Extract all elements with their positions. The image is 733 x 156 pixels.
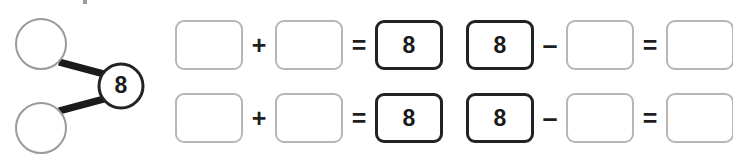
math-worksheet: 8 + = 8 8 – = + = 8 8 bbox=[0, 0, 733, 156]
equation-expression: 8 – = bbox=[466, 93, 733, 143]
equals-operator-icon: = bbox=[343, 33, 375, 58]
plus-operator-icon: + bbox=[243, 33, 275, 58]
minus-operator-icon: – bbox=[534, 105, 566, 132]
plus-operator-icon: + bbox=[243, 106, 275, 131]
answer-box-addend-1[interactable] bbox=[175, 93, 243, 143]
given-box-minuend: 8 bbox=[466, 20, 534, 70]
given-box-sum: 8 bbox=[375, 93, 443, 143]
equation-expression: + = 8 bbox=[175, 93, 443, 143]
equals-operator-icon: = bbox=[634, 106, 666, 131]
answer-box-addend-1[interactable] bbox=[175, 20, 243, 70]
answer-box-subtrahend[interactable] bbox=[566, 93, 634, 143]
bond-connector-top-line bbox=[59, 62, 104, 74]
answer-box-addend-2[interactable] bbox=[275, 93, 343, 143]
equals-operator-icon: = bbox=[343, 106, 375, 131]
bond-total-value: 8 bbox=[101, 74, 141, 97]
equation-row-1-left: + = 8 bbox=[175, 20, 443, 70]
equation-row-2-right: 8 – = bbox=[466, 93, 733, 143]
answer-box-difference[interactable] bbox=[666, 93, 733, 143]
answer-box-subtrahend[interactable] bbox=[566, 20, 634, 70]
answer-box-addend-2[interactable] bbox=[275, 20, 343, 70]
bond-part-bottom-circle[interactable] bbox=[16, 103, 66, 153]
equation-row-1-right: 8 – = bbox=[466, 20, 733, 70]
equals-operator-icon: = bbox=[634, 33, 666, 58]
given-box-sum: 8 bbox=[375, 20, 443, 70]
equation-row-2-left: + = 8 bbox=[175, 93, 443, 143]
given-box-minuend: 8 bbox=[466, 93, 534, 143]
number-bond-diagram: 8 bbox=[0, 0, 165, 156]
bond-part-top-circle[interactable] bbox=[16, 19, 66, 69]
bond-connector-bottom-line bbox=[59, 99, 104, 111]
equation-expression: 8 – = bbox=[466, 20, 733, 70]
equation-expression: + = 8 bbox=[175, 20, 443, 70]
minus-operator-icon: – bbox=[534, 32, 566, 59]
answer-box-difference[interactable] bbox=[666, 20, 733, 70]
